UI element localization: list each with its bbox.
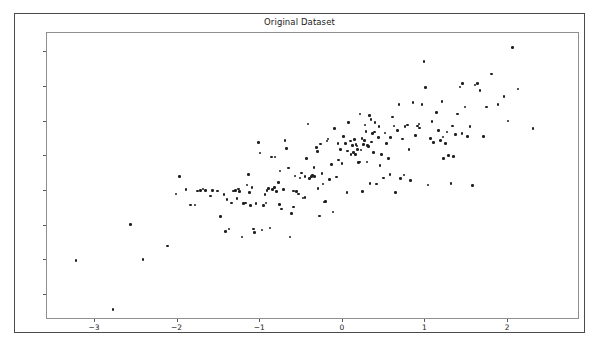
- scatter-point: [432, 141, 435, 144]
- scatter-point: [466, 135, 469, 138]
- scatter-point: [270, 156, 273, 159]
- scatter-point: [372, 151, 375, 154]
- x-axis-tick-mark: [507, 319, 508, 322]
- scatter-point: [259, 152, 262, 155]
- scatter-point: [261, 229, 264, 232]
- scatter-point: [316, 150, 319, 153]
- scatter-point: [406, 124, 409, 127]
- scatter-point: [375, 183, 378, 186]
- scatter-point: [264, 193, 267, 196]
- scatter-point: [328, 178, 331, 181]
- scatter-point: [284, 139, 287, 142]
- scatter-point: [378, 125, 381, 128]
- figure-canvas: Original Dataset 7550250−25−50−75−100 −3…: [14, 13, 585, 333]
- scatter-point: [287, 167, 290, 170]
- scatter-point: [253, 231, 256, 234]
- scatter-point: [347, 121, 350, 124]
- scatter-point: [384, 132, 387, 135]
- scatter-point: [247, 173, 250, 176]
- scatter-point: [142, 258, 145, 261]
- scatter-point: [377, 136, 380, 139]
- scatter-point: [369, 182, 372, 185]
- scatter-point: [327, 138, 330, 141]
- x-axis-tick-mark: [342, 319, 343, 322]
- scatter-point: [356, 148, 359, 151]
- scatter-point: [251, 186, 254, 189]
- scatter-point: [431, 120, 434, 123]
- scatter-point: [424, 86, 427, 89]
- scatter-point: [409, 179, 412, 182]
- scatter-point: [421, 103, 424, 106]
- scatter-point: [269, 227, 272, 230]
- scatter-point: [204, 189, 207, 192]
- scatter-point: [401, 138, 404, 141]
- scatter-point: [305, 157, 308, 160]
- scatter-point: [234, 189, 237, 192]
- scatter-point: [241, 236, 244, 239]
- x-axis-tick-label: −2: [171, 323, 182, 332]
- x-axis-tick-mark: [94, 319, 95, 322]
- scatter-point: [278, 203, 281, 206]
- scatter-point: [497, 103, 500, 106]
- scatter-point: [450, 182, 453, 185]
- scatter-point: [178, 175, 181, 178]
- scatter-point: [282, 188, 285, 191]
- scatter-point: [464, 106, 467, 109]
- scatter-point: [382, 177, 385, 180]
- scatter-point: [289, 236, 292, 239]
- scatter-point: [374, 121, 377, 124]
- scatter-point: [408, 148, 411, 151]
- scatter-point: [364, 124, 367, 127]
- scatter-point: [304, 175, 307, 178]
- scatter-point: [246, 184, 249, 187]
- scatter-point: [423, 60, 426, 63]
- x-axis-tick-label: 1: [422, 323, 427, 332]
- scatter-point: [335, 176, 338, 179]
- scatter-point: [324, 200, 327, 203]
- x-axis-tick-mark: [177, 319, 178, 322]
- scatter-point: [209, 195, 212, 198]
- scatter-point: [265, 202, 268, 205]
- scatter-point: [319, 143, 322, 146]
- scatter-point: [379, 164, 382, 167]
- scatter-point: [361, 190, 364, 193]
- scatter-point: [469, 125, 472, 128]
- scatter-point: [318, 215, 321, 218]
- scatter-point: [337, 159, 340, 162]
- scatter-point: [255, 202, 258, 205]
- scatter-point: [447, 154, 450, 157]
- scatter-point: [341, 162, 344, 165]
- scatter-point: [366, 161, 369, 164]
- scatter-point: [166, 245, 169, 248]
- scatter-point: [224, 230, 227, 233]
- scatter-point: [365, 130, 368, 133]
- scatter-point: [490, 73, 493, 76]
- scatter-point: [412, 101, 415, 104]
- scatter-point: [249, 204, 252, 207]
- x-axis-tick-label: −1: [254, 323, 265, 332]
- scatter-point: [452, 155, 455, 158]
- scatter-point: [346, 150, 349, 153]
- scatter-point: [439, 139, 442, 142]
- scatter-point: [307, 123, 310, 126]
- scatter-point: [476, 82, 479, 85]
- scatter-point: [385, 142, 388, 145]
- scatter-point: [403, 174, 406, 177]
- scatter-point: [442, 157, 445, 160]
- scatter-point: [441, 100, 444, 103]
- scatter-point: [370, 118, 373, 121]
- scatter-point: [292, 206, 295, 209]
- scatter-point: [389, 173, 392, 176]
- x-axis-tick-mark: [259, 319, 260, 322]
- scatter-point: [175, 193, 178, 196]
- scatter-point: [363, 139, 366, 142]
- scatter-point: [482, 135, 485, 138]
- scatter-point: [313, 166, 316, 169]
- scatter-point: [337, 142, 340, 145]
- scatter-point: [517, 88, 520, 91]
- scatter-point: [326, 140, 329, 143]
- scatter-point: [228, 228, 231, 231]
- scatter-point: [356, 145, 359, 148]
- scatter-point: [389, 136, 392, 139]
- scatter-point: [244, 202, 247, 205]
